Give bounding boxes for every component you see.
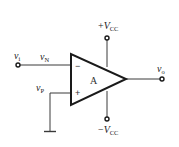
- negative-supply-terminal-icon: [105, 117, 109, 121]
- output-terminal-icon: [160, 77, 164, 81]
- inverting-sign: −: [75, 61, 80, 71]
- positive-supply-label: +VCC: [98, 20, 118, 32]
- noninverting-node-label: vP: [36, 82, 44, 94]
- inverting-node-label: vN: [40, 51, 49, 63]
- output-label: vo: [157, 63, 165, 75]
- input-label: vi: [14, 50, 20, 62]
- negative-supply-label: −VCC: [98, 124, 118, 136]
- noninverting-input-wire: [50, 93, 71, 131]
- positive-supply-terminal-icon: [105, 36, 109, 40]
- amplifier-label: A: [90, 75, 98, 86]
- input-terminal-icon: [16, 63, 20, 67]
- noninverting-sign: +: [75, 88, 80, 98]
- op-amp-diagram: − + A vi vN vP vo +VCC −VCC: [0, 0, 179, 147]
